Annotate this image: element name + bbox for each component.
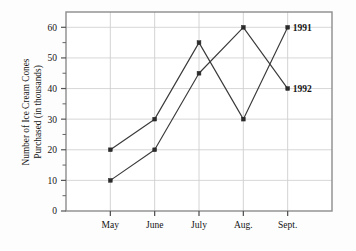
y-tick-label-30: 30 bbox=[48, 115, 58, 125]
x-tick-label-july: July bbox=[191, 220, 207, 230]
data-point-1992-may bbox=[108, 178, 112, 182]
x-axis-ticks bbox=[110, 211, 287, 216]
data-point-1992-sept bbox=[286, 87, 290, 91]
y-tick-label-60: 60 bbox=[48, 23, 58, 33]
y-tick-label-40: 40 bbox=[48, 84, 58, 94]
data-point-1991-july bbox=[197, 41, 201, 45]
y-axis-title-line1: Number of Ice Cream Cones bbox=[21, 58, 31, 165]
series-label-1992: 1992 bbox=[293, 84, 312, 94]
y-tick-label-50: 50 bbox=[48, 53, 58, 63]
series-label-1991: 1991 bbox=[293, 23, 312, 33]
x-tick-label-may: May bbox=[102, 220, 120, 230]
x-tick-label-june: June bbox=[146, 220, 163, 230]
y-axis-ticks bbox=[61, 27, 66, 211]
data-point-1992-june bbox=[153, 148, 157, 152]
data-point-1991-june bbox=[153, 117, 157, 121]
data-point-1991-may bbox=[108, 148, 112, 152]
x-tick-label-aug: Aug. bbox=[234, 220, 253, 230]
data-point-1991-aug bbox=[241, 117, 245, 121]
x-axis-tick-labels: MayJuneJulyAug.Sept. bbox=[102, 220, 298, 230]
y-tick-label-10: 10 bbox=[48, 176, 58, 186]
chart-canvas: 0102030405060 MayJuneJulyAug.Sept. 19911… bbox=[0, 0, 356, 251]
data-point-1991-sept bbox=[286, 25, 290, 29]
ice-cream-cones-line-chart: 0102030405060 MayJuneJulyAug.Sept. 19911… bbox=[0, 0, 356, 251]
data-point-1992-july bbox=[197, 71, 201, 75]
y-axis-tick-labels: 0102030405060 bbox=[48, 23, 58, 217]
data-point-1992-aug bbox=[241, 25, 245, 29]
y-tick-label-0: 0 bbox=[52, 206, 57, 216]
x-tick-label-sept: Sept. bbox=[278, 220, 297, 230]
y-axis-title-line2: Purchased (in thousands) bbox=[33, 65, 44, 158]
y-tick-label-20: 20 bbox=[48, 145, 58, 155]
